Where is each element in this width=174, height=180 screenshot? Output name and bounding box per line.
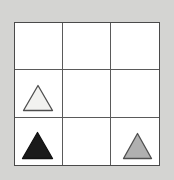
- grid-cell-r3c1[interactable]: [15, 118, 63, 165]
- gray-triangle-icon: [122, 132, 153, 160]
- grid-cell-r1c2[interactable]: [63, 23, 111, 70]
- matrix-grid: [14, 22, 160, 166]
- black-triangle-icon: [21, 131, 54, 160]
- grid-cell-r2c2[interactable]: [63, 70, 111, 117]
- grid-cell-r2c1[interactable]: [15, 70, 63, 117]
- grid-cell-r2c3[interactable]: [111, 70, 159, 117]
- shape-slot-r3c3: [113, 132, 159, 160]
- shape-slot-r2c1: [15, 84, 61, 112]
- grid-cell-r1c3[interactable]: [111, 23, 159, 70]
- white-triangle-icon: [22, 84, 54, 112]
- matrix-figure: [0, 0, 174, 180]
- grid-cell-r1c1[interactable]: [15, 23, 63, 70]
- shape-slot-r3c1: [15, 131, 61, 160]
- grid-cell-r3c2[interactable]: [63, 118, 111, 165]
- grid-cell-r3c3[interactable]: [111, 118, 159, 165]
